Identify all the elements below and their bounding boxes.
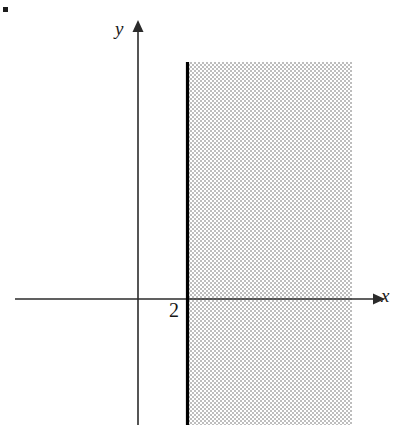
inequality-graph-figure: y x 2: [0, 0, 400, 425]
shaded-region: [189, 62, 352, 425]
y-axis-arrowhead-icon: [133, 20, 144, 32]
x-tick-label-2: 2: [169, 300, 179, 320]
y-axis-label: y: [115, 19, 123, 38]
coordinate-plane-svg: [0, 0, 400, 425]
x-axis-label: x: [381, 286, 389, 305]
